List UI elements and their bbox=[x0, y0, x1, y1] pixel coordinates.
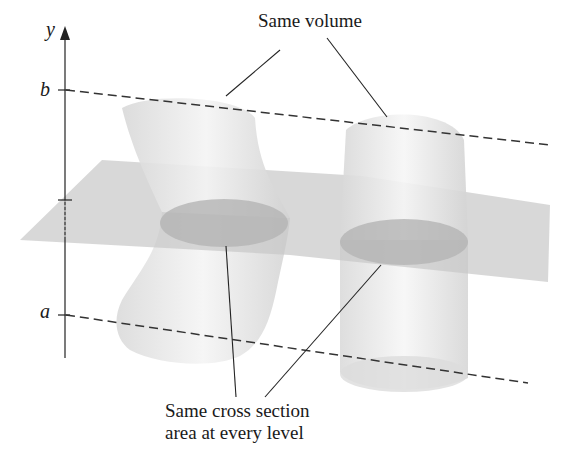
annotation-cross-section-line1: Same cross section bbox=[165, 400, 310, 422]
right-cross-section bbox=[340, 219, 468, 265]
y-axis-label: y bbox=[46, 18, 55, 41]
annotation-same-volume: Same volume bbox=[258, 10, 362, 32]
annotation-cross-section-line2: area at every level bbox=[165, 422, 304, 444]
right-solid-bottom-base bbox=[340, 356, 468, 392]
tick-label-b: b bbox=[40, 78, 50, 101]
leader-volume-left bbox=[226, 50, 280, 96]
leader-volume-right bbox=[327, 38, 387, 117]
tick-label-a: a bbox=[40, 300, 50, 323]
y-axis-arrow-icon bbox=[60, 26, 70, 40]
cavalieri-diagram bbox=[0, 0, 562, 464]
left-cross-section bbox=[160, 199, 288, 247]
